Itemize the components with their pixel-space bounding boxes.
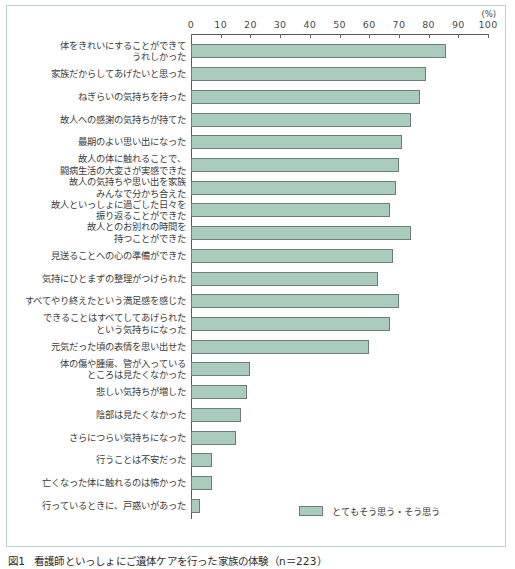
bar-row: 故人とのお別れの時間を 持つことができた: [191, 226, 488, 240]
x-tick-90: [458, 34, 459, 38]
caption-text: 看護師といっしょにご遺体ケアを行った家族の体験（n＝223）: [34, 555, 327, 567]
bar-row: できることはすべてしてあげられた という気持ちになった: [191, 317, 488, 331]
category-label: 行うことは不安だった: [11, 454, 191, 466]
bar: [191, 226, 411, 240]
x-tick-30: [280, 34, 281, 38]
category-label: 故人の気持ちや思い出を家族 みんなで分かち合えた: [11, 176, 191, 199]
bar-row: 気持にひとまずの整理がつけられた: [191, 272, 488, 286]
category-label: ねぎらいの気持ちを持った: [11, 91, 191, 103]
category-label: 故人といっしょに過ごした日々を 振り返ることができた: [11, 199, 191, 222]
x-tick-label-0: 0: [188, 19, 194, 30]
bar-row: 体をきれいにすることができて うれしかった: [191, 44, 488, 58]
bar: [191, 317, 390, 331]
x-tick-70: [399, 34, 400, 38]
x-tick-100: [488, 34, 489, 38]
x-tick-label-20: 20: [244, 19, 257, 30]
bar: [191, 431, 236, 445]
bar: [191, 135, 402, 149]
x-tick-label-30: 30: [274, 19, 287, 30]
bar-row: 亡くなった体に触れるのは怖かった: [191, 476, 488, 490]
x-tick-label-70: 70: [393, 19, 406, 30]
bar: [191, 67, 426, 81]
category-label: 亡くなった体に触れるのは怖かった: [11, 477, 191, 489]
bar: [191, 499, 200, 513]
bar-row: 故人の気持ちや思い出を家族 みんなで分かち合えた: [191, 181, 488, 195]
category-label: 故人への感謝の気持ちが持てた: [11, 114, 191, 126]
caption-number: 図1: [8, 555, 25, 567]
x-tick-40: [310, 34, 311, 38]
x-tick-label-10: 10: [214, 19, 227, 30]
bar: [191, 44, 446, 58]
bar-row: 故人といっしょに過ごした日々を 振り返ることができた: [191, 203, 488, 217]
bar: [191, 294, 399, 308]
bar: [191, 249, 393, 263]
x-tick-label-50: 50: [333, 19, 346, 30]
category-label: 行っているときに、戸惑いがあった: [11, 500, 191, 512]
legend-label: とてもそう思う・そう思う: [332, 504, 440, 518]
x-tick-50: [340, 34, 341, 38]
category-label: すべてやり終えたという満足感を感じた: [11, 295, 191, 307]
bar: [191, 90, 420, 104]
bar-row: すべてやり終えたという満足感を感じた: [191, 294, 488, 308]
bar: [191, 113, 411, 127]
legend-swatch: [299, 506, 323, 516]
bar-row: 故人への感謝の気持ちが持てた: [191, 113, 488, 127]
bar: [191, 408, 241, 422]
category-label: 元気だった頃の表情を思い出せた: [11, 341, 191, 353]
bar: [191, 362, 250, 376]
bar-row: 行うことは不安だった: [191, 453, 488, 467]
x-tick-label-90: 90: [452, 19, 465, 30]
bar-row: 悲しい気持ちが増した: [191, 385, 488, 399]
bar-row: 元気だった頃の表情を思い出せた: [191, 340, 488, 354]
x-tick-80: [429, 34, 430, 38]
category-label: 故人の体に触れることで、 闘病生活の大変さが実感できた: [11, 153, 191, 176]
bar-row: 体の傷や腫瘍、管が入っている ところは見たくなかった: [191, 362, 488, 376]
chart-legend: とてもそう思う・そう思う: [299, 504, 440, 518]
x-tick-10: [221, 34, 222, 38]
bar: [191, 272, 378, 286]
bar-row: 見送ることへの心の準備ができた: [191, 249, 488, 263]
category-label: 家族だからしてあげたいと思った: [11, 68, 191, 80]
category-label: 気持にひとまずの整理がつけられた: [11, 273, 191, 285]
x-tick-60: [369, 34, 370, 38]
x-tick-0: [191, 34, 192, 38]
figure-caption: 図1看護師といっしょにご遺体ケアを行った家族の体験（n＝223）: [8, 553, 327, 568]
category-label: 陰部は見たくなかった: [11, 409, 191, 421]
bar-row: さらにつらい気持ちになった: [191, 431, 488, 445]
category-label: 体の傷や腫瘍、管が入っている ところは見たくなかった: [11, 358, 191, 381]
bar-row: 家族だからしてあげたいと思った: [191, 67, 488, 81]
category-label: さらにつらい気持ちになった: [11, 432, 191, 444]
x-tick-20: [250, 34, 251, 38]
bar: [191, 158, 399, 172]
category-label: 最期のよい思い出になった: [11, 136, 191, 148]
x-tick-label-60: 60: [363, 19, 376, 30]
chart-plot-area: 0102030405060708090100 (%) 体をきれいにすることができ…: [191, 34, 488, 519]
bar-row: 最期のよい思い出になった: [191, 135, 488, 149]
category-label: 体をきれいにすることができて うれしかった: [11, 40, 191, 63]
bar: [191, 476, 212, 490]
bar-row: 陰部は見たくなかった: [191, 408, 488, 422]
bar: [191, 181, 396, 195]
x-tick-label-100: 100: [478, 19, 497, 30]
x-tick-label-80: 80: [422, 19, 435, 30]
bar: [191, 203, 390, 217]
category-label: 故人とのお別れの時間を 持つことができた: [11, 221, 191, 244]
figure-panel: 0102030405060708090100 (%) 体をきれいにすることができ…: [6, 5, 506, 547]
category-label: 悲しい気持ちが増した: [11, 386, 191, 398]
x-tick-label-40: 40: [303, 19, 316, 30]
category-label: 見送ることへの心の準備ができた: [11, 250, 191, 262]
bar-row: 故人の体に触れることで、 闘病生活の大変さが実感できた: [191, 158, 488, 172]
bar: [191, 340, 369, 354]
bar-row: ねぎらいの気持ちを持った: [191, 90, 488, 104]
x-axis-unit-label: (%): [481, 9, 496, 19]
bar: [191, 453, 212, 467]
category-label: できることはすべてしてあげられた という気持ちになった: [11, 312, 191, 335]
bar: [191, 385, 247, 399]
